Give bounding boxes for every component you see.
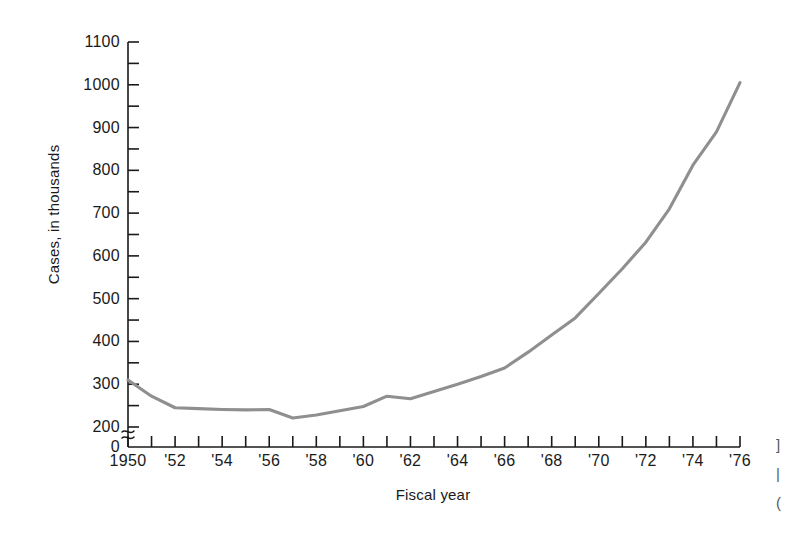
x-axis-title: Fiscal year	[128, 486, 738, 503]
y-tick-label: 1000	[48, 77, 120, 93]
y-tick-label: 1100	[48, 34, 120, 50]
x-tick-label: '76	[710, 453, 770, 469]
bleed-glyph: (	[776, 488, 793, 517]
bleed-glyph: |	[776, 459, 793, 488]
axis-spines	[128, 42, 740, 447]
x-axis-ticks	[128, 436, 740, 447]
x-axis-tick-labels: 1950'52'54'56'58'60'62'64'66'68'70'72'74…	[0, 453, 793, 477]
y-tick-label: 400	[48, 333, 120, 349]
y-tick-label: 300	[48, 376, 120, 392]
chart-figure: 200300400500600700800900100011000 1950'5…	[0, 0, 793, 538]
y-tick-label: 200	[48, 419, 120, 435]
data-series-line	[128, 83, 740, 418]
page-edge-bleed-text: ]|(	[776, 430, 793, 530]
bleed-glyph: ]	[776, 430, 793, 459]
y-axis-title: Cases, in thousands	[45, 115, 62, 315]
y-axis-ticks	[128, 42, 139, 427]
